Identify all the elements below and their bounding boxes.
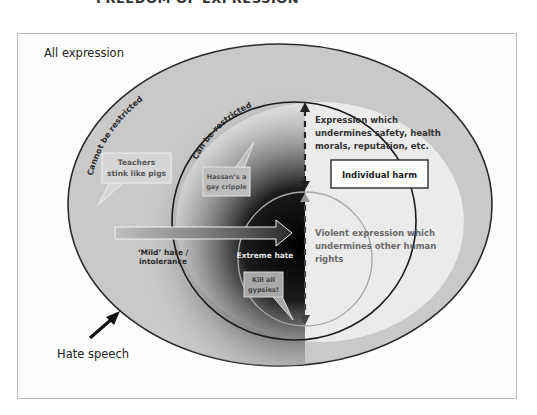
svg-text:gay cripple: gay cripple	[206, 183, 247, 191]
all-expression-label: All expression	[44, 46, 124, 60]
undermines-safety-text-2: undermines safety, health	[315, 128, 441, 138]
violent-expression-text-3: rights	[315, 254, 343, 264]
violent-expression-text-1: Violent expression which	[315, 228, 435, 238]
svg-text:Teachers: Teachers	[118, 158, 156, 167]
hate-speech-diagram: Teachers stink like pigs Hassan’s a gay …	[0, 0, 537, 415]
violent-expression-text-2: undermines other human	[315, 241, 436, 251]
hate-speech-pointer-arrow	[90, 311, 120, 338]
undermines-safety-text-1: Expression which	[315, 115, 398, 125]
svg-text:Kill all: Kill all	[252, 276, 275, 284]
svg-text:Hassan’s a: Hassan’s a	[207, 173, 247, 181]
svg-text:Individual harm: Individual harm	[342, 170, 417, 180]
hate-speech-label: Hate speech	[57, 347, 129, 361]
undermines-safety-text-3: morals, reputation, etc.	[315, 141, 429, 151]
intolerance-label: intolerance	[139, 257, 187, 266]
individual-harm-box: Individual harm	[331, 160, 428, 188]
svg-text:stink like pigs: stink like pigs	[107, 169, 166, 178]
mild-hate-label: ‘Mild’ hate /	[138, 248, 189, 257]
svg-text:gypsies!: gypsies!	[248, 286, 279, 294]
extreme-hate-label: Extreme hate	[237, 251, 294, 260]
